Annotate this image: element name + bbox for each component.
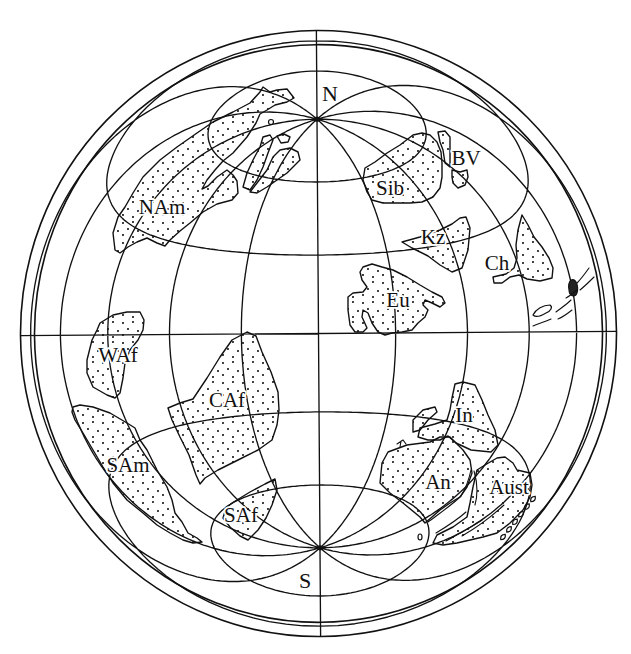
label-bv: BV bbox=[451, 146, 480, 170]
landmass-north-america-fragment bbox=[277, 134, 290, 143]
antarctica-islet bbox=[418, 534, 422, 540]
label-europe: Eu bbox=[386, 288, 410, 312]
label-south-america: SAm bbox=[106, 453, 149, 477]
label-antarctica: An bbox=[425, 470, 451, 494]
label-north-america: NAm bbox=[139, 195, 186, 219]
paleogeographic-globe-map: N S NAm Sib BV Kz Ch Eu WAf CAf SAm SAf … bbox=[0, 0, 631, 654]
label-west-africa: WAf bbox=[98, 343, 138, 367]
label-siberia: Sib bbox=[376, 176, 404, 200]
south-pole-label: S bbox=[299, 568, 311, 593]
north-pole-label: N bbox=[322, 81, 338, 106]
landmass-bv-fragment bbox=[452, 170, 468, 188]
label-south-africa: SAf bbox=[224, 503, 258, 527]
label-kazakhstan: Kz bbox=[421, 225, 446, 249]
north-pole-dot bbox=[314, 117, 319, 122]
label-india: In bbox=[455, 403, 473, 427]
label-china: Ch bbox=[485, 251, 510, 275]
south-pole-dot bbox=[317, 545, 322, 550]
label-central-africa: CAf bbox=[209, 388, 245, 412]
island-arc-islet bbox=[533, 305, 551, 316]
label-australia: Aust bbox=[489, 475, 529, 499]
north-america-lake bbox=[269, 120, 274, 125]
